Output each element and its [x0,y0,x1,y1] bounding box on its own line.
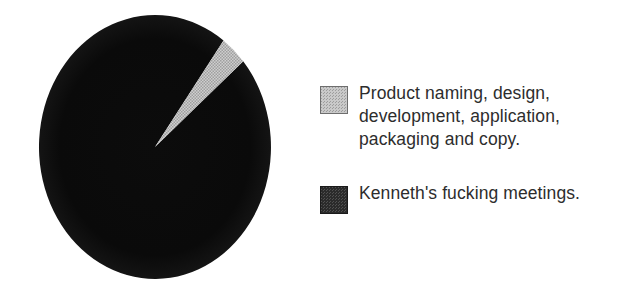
legend-item-meetings: Kenneth's fucking meetings. [320,182,612,214]
legend-item-product-work: Product naming, design, development, app… [320,82,612,151]
legend-swatch-product-work-icon [320,86,348,114]
legend-label-product-work: Product naming, design, development, app… [359,82,560,151]
pie-chart-svg [28,6,284,290]
legend-label-meetings: Kenneth's fucking meetings. [359,182,580,205]
pie-chart-figure: Product naming, design, development, app… [0,0,619,294]
chart-legend: Product naming, design, development, app… [320,82,612,214]
pie-chart-plot-area [28,6,284,290]
legend-swatch-meetings-icon [320,186,348,214]
